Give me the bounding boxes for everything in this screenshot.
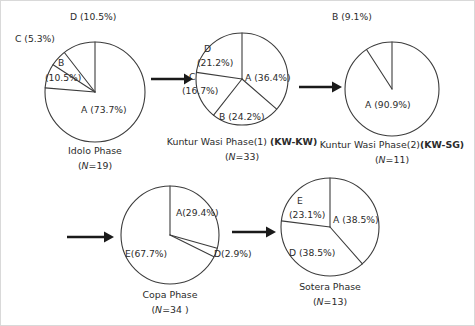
pie-caption-idolo-title: Idolo Phase: [68, 145, 122, 156]
pie-label-kw1-A: A (36.4%): [245, 72, 291, 83]
pie-label-kw1-C-line2: (16.7%): [182, 85, 218, 96]
n-suffix: =34 ): [162, 304, 188, 315]
pie-label-idolo-C: C (5.3%): [15, 33, 55, 44]
pie-label-idolo-B-line2: (10.5%): [45, 72, 81, 83]
pie-chart-sotera: A (38.5%) D (38.5%) E (23.1%) Sotera Pha…: [281, 178, 379, 307]
pie-n-idolo: (N=19): [78, 160, 112, 171]
pie-caption-copa-title: Copa Phase: [143, 289, 198, 300]
pie-n-kw1: (N=33): [225, 151, 259, 162]
pie-label-idolo-A: A (73.7%): [81, 104, 127, 115]
pie-label-kw1-C-line1: C: [189, 71, 195, 82]
pie-caption-copa: Copa Phase: [143, 289, 198, 300]
pie-label-sotera-E-line2: (23.1%): [289, 209, 325, 220]
pie-caption-sotera-title: Sotera Phase: [299, 281, 361, 292]
pie-label-sotera-E-line1: E: [297, 195, 303, 206]
n-italic: N: [317, 296, 324, 307]
figure-canvas: D (10.5%) C (5.3%) B (10.5%) A (73.7%) I…: [1, 1, 475, 326]
n-italic: N: [82, 160, 89, 171]
pie-label-kw2-B: B (9.1%): [332, 11, 372, 22]
pie-caption-kw2-plain: Kuntur Wasi Phase(2): [320, 139, 420, 150]
pie-label-kw1-B: B (24.2%): [219, 111, 265, 122]
arrow-kw1-to-kw2: [299, 82, 342, 93]
pie-chart-idolo: D (10.5%) C (5.3%) B (10.5%) A (73.7%) I…: [15, 11, 145, 171]
pie-caption-kw1-bold: (KW-KW): [270, 136, 317, 147]
pie-caption-kw2-bold: (KW-SG): [420, 139, 464, 150]
n-italic: N: [229, 151, 236, 162]
n-suffix: =19): [89, 160, 112, 171]
pie-label-idolo-B-line1: B: [58, 57, 64, 68]
pie-label-kw2-A: A (90.9%): [365, 99, 411, 110]
arrow-head: [266, 227, 276, 238]
pie-label-sotera-D: D (38.5%): [289, 247, 335, 258]
pie-caption-kw1-plain: Kuntur Wasi Phase(1): [167, 136, 270, 147]
pie-chart-copa: A(29.4%) D(2.9%) E(67.7%) Copa Phase (N=…: [121, 186, 252, 315]
pie-n-kw2: (N=11): [375, 154, 409, 165]
arrow-head: [332, 82, 342, 93]
pie-label-kw1-D-line2: (21.2%): [197, 57, 233, 68]
n-italic: N: [379, 154, 386, 165]
n-suffix: =11): [386, 154, 409, 165]
n-suffix: =33): [236, 151, 259, 162]
n-italic: N: [155, 304, 162, 315]
arrow-kw2-to-copa: [67, 232, 114, 243]
pie-n-copa: (N=34 ): [151, 304, 188, 315]
arrow-copa-to-sotera: [232, 227, 276, 238]
pie-label-copa-E: E(67.7%): [125, 248, 167, 259]
pie-label-copa-A: A(29.4%): [176, 207, 219, 218]
pie-label-idolo-D: D (10.5%): [70, 11, 116, 22]
arrow-idolo-to-kw1: [151, 74, 193, 85]
arrow-head: [104, 232, 114, 243]
pie-flow-figure: D (10.5%) C (5.3%) B (10.5%) A (73.7%) I…: [0, 0, 475, 326]
pie-caption-kw1: Kuntur Wasi Phase(1) (KW-KW): [167, 136, 317, 147]
pie-caption-sotera: Sotera Phase: [299, 281, 361, 292]
pie-caption-kw2: Kuntur Wasi Phase(2)(KW-SG): [320, 139, 464, 150]
n-suffix: =13): [324, 296, 347, 307]
pie-caption-idolo: Idolo Phase: [68, 145, 122, 156]
pie-chart-kuntur-wasi-1: D (21.2%) C (16.7%) B (24.2%) A (36.4%) …: [167, 33, 317, 162]
pie-label-kw1-D-line1: D: [204, 43, 211, 54]
pie-chart-kuntur-wasi-2: B (9.1%) A (90.9%) Kuntur Wasi Phase(2)(…: [320, 11, 464, 165]
pie-label-sotera-A: A (38.5%): [333, 214, 379, 225]
pie-label-copa-D: D(2.9%): [214, 248, 252, 259]
pie-n-sotera: (N=13): [313, 296, 347, 307]
